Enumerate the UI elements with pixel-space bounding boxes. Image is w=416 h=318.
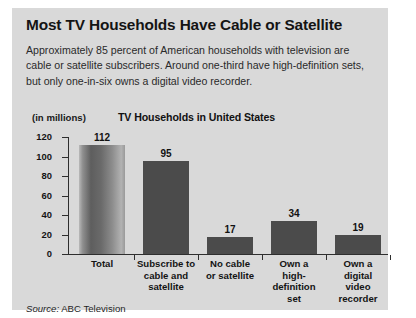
bar: 19 bbox=[335, 235, 381, 254]
category-label-line: satellite bbox=[134, 281, 198, 293]
y-axis-tick: 60 bbox=[56, 196, 68, 197]
x-axis-category-label: No cableor satellite bbox=[198, 258, 262, 281]
category-label-line: Own a bbox=[326, 258, 390, 270]
y-axis-tick-label: 0 bbox=[47, 248, 52, 259]
y-axis-tick-mark bbox=[62, 215, 68, 216]
bar: 112 bbox=[79, 145, 125, 254]
y-axis-tick-mark bbox=[62, 176, 68, 177]
page-title: Most TV Households Have Cable or Satelli… bbox=[26, 17, 378, 34]
x-axis-category-label: Total bbox=[70, 258, 134, 270]
category-label-line: recorder bbox=[326, 293, 390, 305]
bar-value-label: 34 bbox=[288, 208, 299, 219]
category-label-line: No cable bbox=[198, 258, 262, 270]
bar: 95 bbox=[143, 161, 189, 254]
y-axis-tick-mark bbox=[62, 157, 68, 158]
category-label-line: Total bbox=[70, 258, 134, 270]
y-axis-tick-label: 80 bbox=[42, 170, 52, 181]
y-axis-units-label: (in millions) bbox=[32, 112, 86, 123]
infographic-card: Most TV Households Have Cable or Satelli… bbox=[12, 8, 388, 310]
y-axis-tick: 120 bbox=[56, 137, 68, 138]
y-axis-tick-label: 120 bbox=[36, 131, 52, 142]
source-note: Source: ABC Television bbox=[26, 303, 126, 314]
chart-title: TV Households in United States bbox=[118, 111, 275, 123]
x-axis-category-label: Subscribe tocable andsatellite bbox=[134, 258, 198, 293]
bar: 17 bbox=[207, 237, 253, 254]
y-axis-tick: 0 bbox=[56, 254, 68, 255]
summary-paragraph: Approximately 85 percent of American hou… bbox=[26, 43, 374, 89]
y-axis-line bbox=[68, 137, 69, 254]
y-axis-tick-mark bbox=[62, 137, 68, 138]
x-axis-tick-mark bbox=[390, 255, 391, 260]
category-label-line: cable and bbox=[134, 270, 198, 282]
category-label-line: Subscribe to bbox=[134, 258, 198, 270]
bar-chart-plot-area: 020406080100120 11295173419 bbox=[56, 126, 388, 256]
source-value: ABC Television bbox=[61, 303, 125, 314]
category-label-line: digital bbox=[326, 270, 390, 282]
category-label-line: or satellite bbox=[198, 270, 262, 282]
y-axis-tick: 40 bbox=[56, 215, 68, 216]
y-axis-tick-label: 20 bbox=[42, 229, 52, 240]
y-axis-tick-mark bbox=[62, 235, 68, 236]
x-axis-category-label: Own ahigh-definitionset bbox=[262, 258, 326, 305]
y-axis-tick: 100 bbox=[56, 157, 68, 158]
x-axis-line bbox=[68, 254, 388, 255]
y-axis-tick-mark bbox=[62, 196, 68, 197]
bar-value-label: 112 bbox=[94, 132, 110, 143]
y-axis-tick-label: 60 bbox=[42, 190, 52, 201]
y-axis-tick: 80 bbox=[56, 176, 68, 177]
category-label-line: Own a bbox=[262, 258, 326, 270]
category-label-line: high-definition bbox=[262, 270, 326, 293]
source-label: Source: bbox=[26, 303, 59, 314]
y-axis-tick-label: 40 bbox=[42, 209, 52, 220]
bar-value-label: 95 bbox=[160, 148, 171, 159]
x-axis-category-label: Own adigitalvideorecorder bbox=[326, 258, 390, 305]
bar-value-label: 17 bbox=[224, 224, 235, 235]
category-label-line: set bbox=[262, 293, 326, 305]
y-axis-tick: 20 bbox=[56, 235, 68, 236]
y-axis-tick-mark bbox=[62, 254, 68, 255]
bar-value-label: 19 bbox=[352, 222, 363, 233]
bar: 34 bbox=[271, 221, 317, 254]
category-label-line: video bbox=[326, 281, 390, 293]
y-axis-tick-label: 100 bbox=[36, 151, 52, 162]
